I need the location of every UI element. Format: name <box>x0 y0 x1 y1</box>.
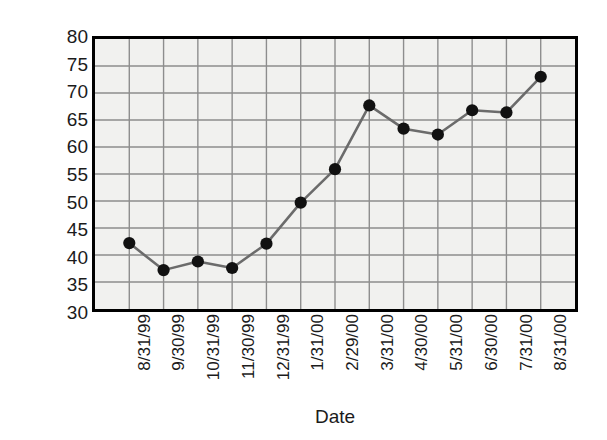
data-point-marker <box>535 71 547 83</box>
y-axis-tick-labels: 3035404550556065707580 <box>52 36 88 312</box>
y-tick-label: 80 <box>52 27 88 46</box>
data-point-marker <box>260 238 272 250</box>
x-tick-label: 5/31/00 <box>448 314 466 406</box>
x-tick-label: 3/31/00 <box>379 314 397 406</box>
x-tick-label: 7/31/00 <box>518 314 536 406</box>
x-tick-label: 10/31/99 <box>205 314 223 406</box>
y-tick-label: 45 <box>52 220 88 239</box>
data-point-marker <box>432 129 444 141</box>
data-point-marker <box>466 104 478 116</box>
data-point-marker <box>192 255 204 267</box>
x-tick-label: 6/30/00 <box>483 314 501 406</box>
plot-area <box>92 36 578 312</box>
y-tick-label: 60 <box>52 137 88 156</box>
line-chart-figure: Closing price 3035404550556065707580 8/3… <box>0 0 607 440</box>
y-tick-label: 30 <box>52 303 88 322</box>
x-tick-label: 2/29/00 <box>344 314 362 406</box>
y-tick-label: 70 <box>52 82 88 101</box>
y-tick-label: 75 <box>52 54 88 73</box>
data-point-marker <box>363 99 375 111</box>
data-point-marker <box>329 163 341 175</box>
y-tick-label: 65 <box>52 109 88 128</box>
x-axis-title: Date <box>92 406 578 428</box>
y-tick-label: 35 <box>52 275 88 294</box>
y-axis-title: Closing price <box>14 0 44 66</box>
x-tick-label: 8/31/99 <box>136 314 154 406</box>
data-point-marker <box>226 262 238 274</box>
x-tick-label: 12/31/99 <box>275 314 293 406</box>
data-point-marker <box>295 197 307 209</box>
y-tick-label: 50 <box>52 192 88 211</box>
x-tick-label: 8/31/00 <box>552 314 570 406</box>
x-tick-label: 9/30/99 <box>170 314 188 406</box>
plot-svg <box>95 39 575 309</box>
y-tick-label: 55 <box>52 165 88 184</box>
x-tick-label: 4/30/00 <box>413 314 431 406</box>
y-tick-label: 40 <box>52 247 88 266</box>
x-axis-tick-labels: 8/31/999/30/9910/31/9911/30/9912/31/991/… <box>92 314 578 406</box>
data-point-marker <box>157 264 169 276</box>
x-tick-label: 1/31/00 <box>309 314 327 406</box>
data-point-marker <box>500 106 512 118</box>
x-tick-label: 11/30/99 <box>240 314 258 406</box>
data-point-marker <box>397 123 409 135</box>
data-point-marker <box>123 237 135 249</box>
